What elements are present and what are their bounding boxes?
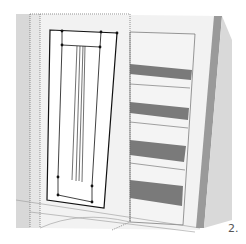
- step-number-label: 2.: [228, 222, 239, 235]
- left-side-panel: [16, 14, 30, 228]
- door-cabinet-model: [0, 0, 246, 244]
- left-side-panel-inner: [30, 14, 40, 228]
